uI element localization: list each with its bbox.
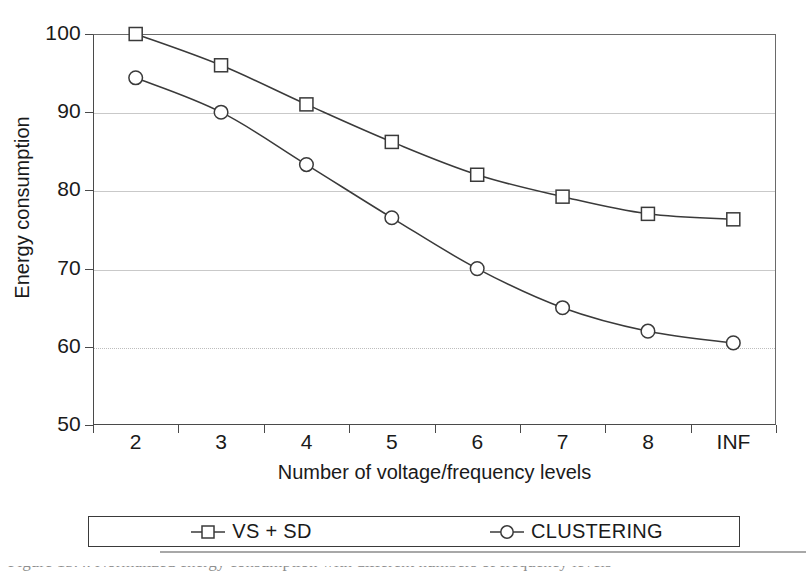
ytick-label-50: 50 [33,412,81,436]
legend-label-clustering: CLUSTERING [531,520,663,543]
y-axis-title: Energy consumption [11,0,34,418]
legend-label-vs-sd: VS + SD [232,520,311,543]
xtick-label-5: 5 [347,430,437,454]
caption-text: Figure 15.4. Normalized energy consumpti… [8,566,612,572]
plot-area [93,34,776,425]
ytick-label-100: 100 [33,21,81,45]
ytick-mark-60 [85,347,93,348]
xtick-label-6: 6 [432,430,522,454]
ytick-mark-50 [85,425,93,426]
gridline-90 [94,113,775,114]
ytick-label-90: 90 [33,99,81,123]
caption-clipped: Figure 15.4. Normalized energy consumpti… [0,566,806,575]
ytick-mark-70 [85,269,93,270]
legend: VS + SD CLUSTERING [88,516,740,547]
ytick-mark-80 [85,190,93,191]
gridline-80 [94,191,775,192]
page-divider [160,551,806,553]
x-axis-title: Number of voltage/frequency levels [93,461,776,484]
ytick-mark-90 [85,112,93,113]
xtick-label-inf: INF [689,430,779,454]
xtick-label-3: 3 [176,430,266,454]
open-circle-marker-icon [490,523,524,541]
open-square-marker-icon [191,523,225,541]
xtick-label-7: 7 [518,430,608,454]
xtick-label-4: 4 [262,430,352,454]
xtick-label-8: 8 [603,430,693,454]
legend-entry-clustering[interactable]: CLUSTERING [414,520,739,543]
ytick-label-70: 70 [33,256,81,280]
ytick-label-80: 80 [33,177,81,201]
gridline-70 [94,270,775,271]
ytick-label-60: 60 [33,334,81,358]
ytick-mark-100 [85,34,93,35]
chart-figure: 100 90 80 70 60 50 Energy consumption 2 … [0,0,806,575]
legend-entry-vs-sd[interactable]: VS + SD [89,520,414,543]
gridline-60 [94,348,775,349]
xtick-label-2: 2 [91,430,181,454]
